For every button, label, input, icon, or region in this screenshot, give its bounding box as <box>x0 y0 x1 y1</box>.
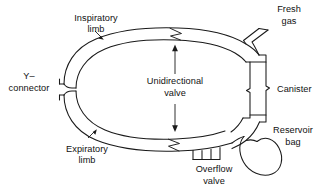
overflow-valve-bracket-left <box>193 150 202 159</box>
y-connector-label-line1: Y– <box>23 71 35 81</box>
valve-arrow-down-arrowhead <box>172 125 178 132</box>
overflow-valve-bracket-right <box>211 148 220 160</box>
y-connector-label-line2: connector <box>9 83 50 93</box>
overflow-valve-label-line1: Overflow <box>196 164 233 174</box>
unidirectional-valve-label-line2: valve <box>164 88 186 98</box>
canister-inner-bracket <box>243 62 250 118</box>
unidirectional-valve-bottom-icon <box>169 139 180 151</box>
outer-wall-bottom <box>64 95 232 151</box>
circle-breathing-system-diagram: Inspiratory limb Y– connector Expiratory… <box>0 0 326 188</box>
inspiratory-limb-label-line2: limb <box>87 24 104 34</box>
canister-outer-bracket <box>259 55 270 122</box>
inspiratory-limb-label-line1: Inspiratory <box>74 13 118 23</box>
expiratory-limb-label-line1: Expiratory <box>66 144 108 154</box>
inner-wall-lower-right <box>231 118 243 132</box>
canister-label: Canister <box>277 84 312 94</box>
fresh-gas-branch-right <box>252 30 268 55</box>
expiratory-limb-leader-arrowhead <box>93 129 97 135</box>
y-connector-upper-inner-end <box>64 84 76 88</box>
inner-wall-bottom <box>76 91 225 139</box>
valve-arrow-up-arrowhead <box>172 45 178 52</box>
reservoir-bag-label-line2: bag <box>285 137 300 147</box>
reservoir-bag-body <box>240 137 282 176</box>
y-connector-lower-inner-end <box>64 91 76 95</box>
unidirectional-valve-label-line1: Unidirectional <box>147 76 203 86</box>
overflow-valve-label-line2: valve <box>203 176 225 186</box>
diagram-canvas: Inspiratory limb Y– connector Expiratory… <box>0 0 326 188</box>
fresh-gas-label-line2: gas <box>282 16 297 26</box>
expiratory-limb-label-line2: limb <box>78 155 95 165</box>
unidirectional-valve-top-icon <box>170 28 182 40</box>
reservoir-bag-label-line1: Reservoir <box>273 125 313 135</box>
fresh-gas-inlet-tip <box>259 29 268 31</box>
fresh-gas-branch-left <box>244 29 260 45</box>
outer-wall-lower-right <box>232 122 260 149</box>
fresh-gas-label-line1: Fresh <box>277 4 301 14</box>
reservoir-bag-neck-right <box>246 140 257 142</box>
